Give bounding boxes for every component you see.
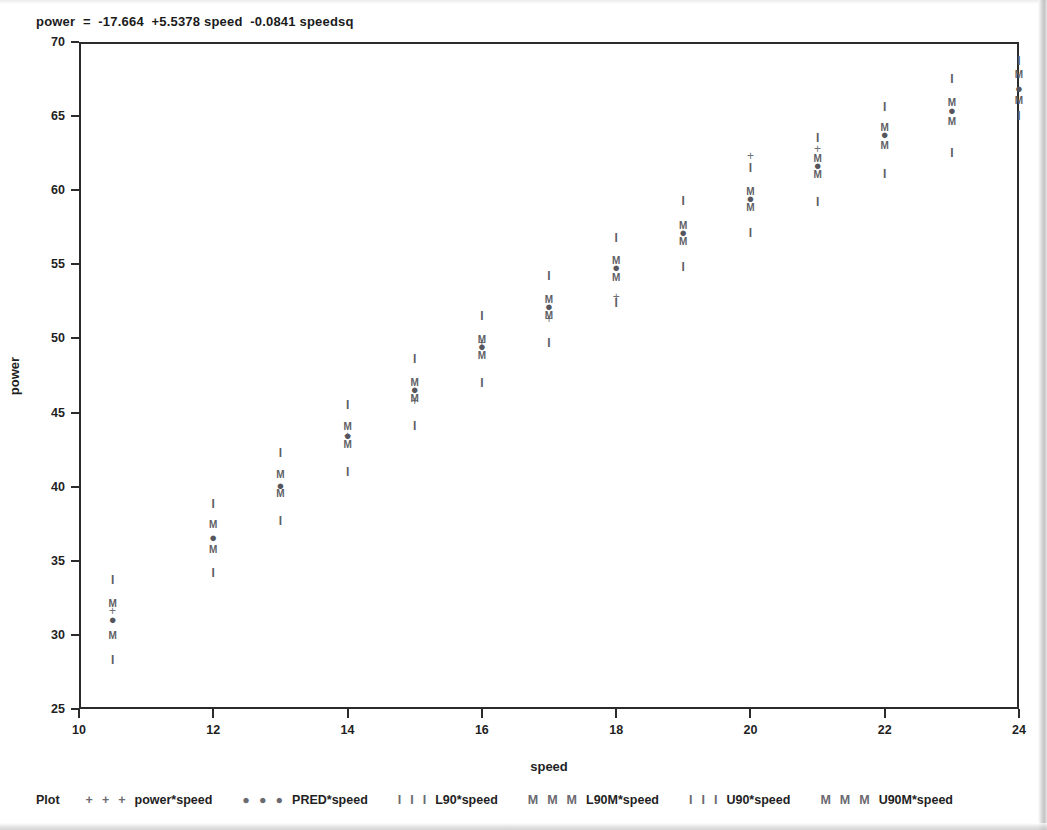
figure-page: power = -17.664 +5.5378 speed -0.0841 sp… <box>0 0 1047 830</box>
data-point-L90-speed: I <box>480 377 483 389</box>
y-tick-mark <box>71 486 79 488</box>
y-tick-label: 45 <box>51 406 65 420</box>
x-tick-mark <box>347 709 349 718</box>
legend-label: power*speed <box>135 793 213 807</box>
x-tick-mark <box>78 709 80 718</box>
y-tick-mark <box>71 115 79 117</box>
data-point-U90-speed: I <box>480 310 483 322</box>
data-point-L90M-speed: M <box>612 273 620 283</box>
x-tick-mark <box>481 709 483 718</box>
x-tick-label: 20 <box>743 723 757 737</box>
x-tick-label: 18 <box>609 723 623 737</box>
data-point-L90M-speed: M <box>679 237 687 247</box>
data-point-L90-speed: I <box>816 196 819 208</box>
legend-entry: IIIL90*speed <box>398 793 498 807</box>
data-point-L90M-speed: M <box>411 394 419 404</box>
y-tick-label: 70 <box>51 35 65 49</box>
y-tick-label: 50 <box>51 331 65 345</box>
data-point-U90M-speed: M <box>343 422 351 432</box>
data-point-U90-speed: I <box>212 498 215 510</box>
y-tick-label: 40 <box>51 480 65 494</box>
x-tick-mark <box>615 709 617 718</box>
data-point-L90-speed: I <box>346 466 349 478</box>
data-point-U90-speed: I <box>883 101 886 113</box>
data-point-L90-speed: I <box>111 654 114 666</box>
data-point-L90-speed: I <box>279 515 282 527</box>
data-point-U90-speed: I <box>816 132 819 144</box>
data-point-L90M-speed: M <box>948 117 956 127</box>
legend-label: PRED*speed <box>292 793 368 807</box>
data-point-PRED-speed: ● <box>209 531 217 544</box>
data-point-L90M-speed: M <box>209 545 217 555</box>
data-point-L90M-speed: M <box>746 203 754 213</box>
data-point-U90M-speed: M <box>108 599 116 609</box>
legend-entry: IIIU90*speed <box>689 793 790 807</box>
data-point-U90-speed: I <box>111 574 114 586</box>
y-tick-mark <box>71 634 79 636</box>
scan-edge-right <box>1038 0 1047 830</box>
legend-entry: ●●●PRED*speed <box>242 793 367 807</box>
legend: Plot +++power*speed●●●PRED*speedIIIL90*s… <box>36 789 1021 811</box>
m-marker: MMM <box>528 793 577 807</box>
x-tick-label: 10 <box>72 723 86 737</box>
data-point-U90M-speed: M <box>478 335 486 345</box>
data-point-L90M-speed: M <box>881 141 889 151</box>
m-marker: MMM <box>820 793 869 807</box>
data-point-U90M-speed: M <box>209 520 217 530</box>
x-tick-label: 16 <box>475 723 489 737</box>
scan-edge-top <box>0 0 1047 4</box>
model-equation-title: power = -17.664 +5.5378 speed -0.0841 sp… <box>36 14 354 29</box>
data-point-L90M-speed: M <box>1015 96 1023 106</box>
legend-label: U90*speed <box>726 793 790 807</box>
data-point-L90M-speed: M <box>478 351 486 361</box>
x-tick-mark <box>1018 709 1020 718</box>
y-tick-label: 35 <box>51 554 65 568</box>
legend-title: Plot <box>36 793 60 807</box>
data-point-L90-speed: I <box>1017 110 1020 122</box>
data-point-L90-speed: I <box>682 261 685 273</box>
data-point-U90M-speed: M <box>411 378 419 388</box>
data-point-U90-speed: I <box>950 73 953 85</box>
y-tick-mark <box>71 412 79 414</box>
data-point-PRED-speed: ● <box>109 612 117 625</box>
y-tick-label: 55 <box>51 257 65 271</box>
data-point-PRED-speed: ● <box>1015 81 1023 94</box>
data-point-L90-speed: I <box>883 168 886 180</box>
scan-edge-bottom <box>0 823 1047 830</box>
data-point-L90-speed: I <box>212 567 215 579</box>
y-tick-label: 25 <box>51 702 65 716</box>
legend-label: U90M*speed <box>879 793 953 807</box>
x-axis-label: speed <box>530 759 568 774</box>
data-point-L90M-speed: M <box>813 170 821 180</box>
legend-entry: +++power*speed <box>86 793 213 807</box>
legend-label: L90M*speed <box>586 793 659 807</box>
y-tick-label: 60 <box>51 183 65 197</box>
data-point-U90-speed: I <box>1017 55 1020 67</box>
y-tick-label: 65 <box>51 109 65 123</box>
data-point-U90-speed: I <box>346 399 349 411</box>
bar-marker: III <box>398 793 426 807</box>
y-tick-label: 30 <box>51 628 65 642</box>
x-tick-mark <box>884 709 886 718</box>
plus-marker: +++ <box>86 793 126 807</box>
data-point-layer: ++++++++●●●●●●●●●●●●●●IIIIIIIIIIIIIIMMMM… <box>79 42 1019 709</box>
y-axis-label: power <box>7 357 22 395</box>
data-point-U90-speed: I <box>547 270 550 282</box>
y-tick-mark <box>71 560 79 562</box>
legend-entries: +++power*speed●●●PRED*speedIIIL90*speedM… <box>86 793 983 807</box>
legend-entry: MMML90M*speed <box>528 793 659 807</box>
data-point-U90M-speed: M <box>881 123 889 133</box>
y-tick-mark <box>71 189 79 191</box>
data-point-U90M-speed: M <box>746 187 754 197</box>
data-point-U90-speed: I <box>413 353 416 365</box>
data-point-U90M-speed: M <box>545 295 553 305</box>
data-point-U90-speed: I <box>749 162 752 174</box>
data-point-U90M-speed: M <box>276 470 284 480</box>
data-point-L90-speed: I <box>614 297 617 309</box>
data-point-L90M-speed: M <box>108 631 116 641</box>
data-point-U90M-speed: M <box>1015 70 1023 80</box>
dot-marker: ●●● <box>242 793 283 807</box>
bar-marker: III <box>689 793 717 807</box>
data-point-U90-speed: I <box>614 232 617 244</box>
data-point-L90-speed: I <box>413 420 416 432</box>
